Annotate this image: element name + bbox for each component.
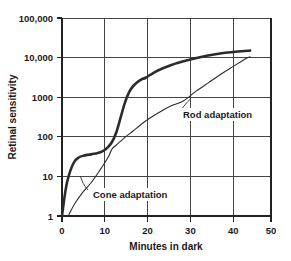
x-tick-label-30: 30	[185, 225, 196, 236]
x-tick-label-0: 0	[59, 225, 64, 236]
rod-adaptation-label: Rod adaptation	[183, 109, 252, 120]
cone-adaptation-label: Cone adaptation	[93, 189, 168, 200]
y-tick-label-100: 100	[37, 131, 53, 142]
x-tick-label-20: 20	[142, 225, 153, 236]
x-tick-label-40: 40	[228, 225, 239, 236]
y-tick-label-10000: 10,000	[24, 52, 53, 63]
retinal-sensitivity-chart: 100,000 10,000 1000 100 10 1 0 10 20 30 …	[0, 0, 291, 261]
chart-svg: 100,000 10,000 1000 100 10 1 0 10 20 30 …	[0, 0, 291, 261]
x-tick-label-50: 50	[266, 225, 277, 236]
y-axis-title: Retinal sensitivity	[7, 74, 18, 159]
x-axis-title: Minutes in dark	[129, 241, 203, 252]
y-tick-label-10: 10	[42, 171, 53, 182]
x-tick-label-10: 10	[100, 225, 111, 236]
y-tick-label-100000: 100,000	[19, 13, 53, 24]
y-tick-label-1000: 1000	[32, 92, 53, 103]
y-tick-label-1: 1	[48, 211, 54, 222]
